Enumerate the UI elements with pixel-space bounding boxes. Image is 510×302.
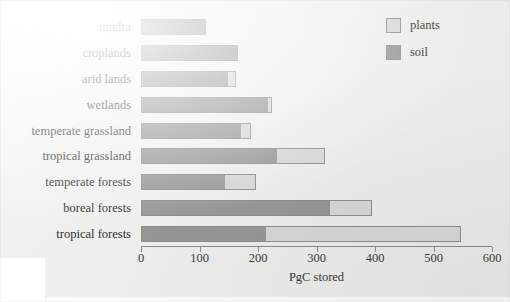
bar-segment-plants [228, 71, 236, 87]
figure-panel: tundracroplandsarid landswetlandstempera… [0, 0, 510, 302]
bar-segment-soil [141, 97, 268, 113]
x-axis-label: PgC stored [141, 270, 492, 285]
bar-segment-plants [266, 226, 461, 242]
category-label: croplands [82, 45, 131, 61]
bar-segment-soil [141, 148, 277, 164]
x-axis-tick-label: 600 [483, 251, 502, 266]
legend-item-soil: soil [386, 45, 440, 60]
category-label: temperate grassland [31, 123, 131, 139]
bar-segment-soil [141, 19, 206, 35]
bar-row [141, 71, 236, 87]
x-axis-tick-label: 300 [307, 251, 326, 266]
legend: plants soil [386, 18, 440, 72]
bar-row [141, 200, 372, 216]
x-axis-tick-label: 500 [424, 251, 443, 266]
category-label: tropical grassland [42, 148, 131, 164]
category-label: arid lands [82, 71, 131, 87]
category-label: tundra [99, 19, 131, 35]
page-edge-corner [0, 258, 46, 302]
legend-swatch-soil-icon [386, 45, 401, 60]
x-axis-tick-label: 0 [138, 251, 144, 266]
bar-segment-plants [268, 97, 272, 113]
bar-row [141, 148, 325, 164]
bar-segment-plants [330, 200, 372, 216]
category-label: tropical forests [56, 226, 131, 242]
bar-segment-plants [277, 148, 324, 164]
x-axis-tick-label: 100 [190, 251, 209, 266]
page-edge-strip [46, 297, 510, 302]
bar-row [141, 19, 206, 35]
legend-item-plants: plants [386, 18, 440, 33]
bar-row [141, 174, 256, 190]
legend-swatch-plants-icon [386, 18, 401, 33]
bar-segment-soil [141, 200, 330, 216]
bar-segment-plants [225, 174, 256, 190]
category-label: temperate forests [45, 174, 131, 190]
legend-label-plants: plants [410, 18, 440, 33]
bar-row [141, 97, 272, 113]
bar-segment-soil [141, 71, 228, 87]
bar-segment-soil [141, 45, 238, 61]
x-axis-tick-label: 200 [249, 251, 268, 266]
bar-segment-soil [141, 226, 266, 242]
bar-row [141, 123, 251, 139]
bar-row [141, 45, 238, 61]
x-axis-tick-label: 400 [366, 251, 385, 266]
category-axis-labels: tundracroplandsarid landswetlandstempera… [0, 14, 136, 247]
category-label: wetlands [87, 97, 131, 113]
bar-segment-plants [241, 123, 251, 139]
category-label: boreal forests [63, 200, 131, 216]
bar-segment-soil [141, 174, 225, 190]
bar-segment-soil [141, 123, 241, 139]
legend-label-soil: soil [410, 45, 428, 60]
bar-row [141, 226, 461, 242]
